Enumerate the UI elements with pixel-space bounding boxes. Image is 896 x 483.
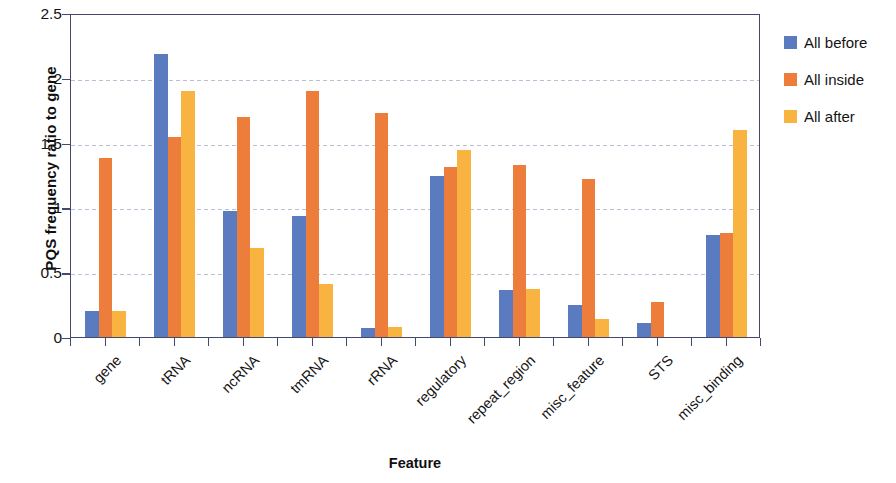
legend-swatch-icon [784, 110, 797, 123]
bar [430, 176, 444, 337]
legend-swatch-icon [784, 73, 797, 86]
bar-group [499, 15, 540, 337]
y-axis-tick-mark [62, 338, 70, 339]
legend-label: All inside [804, 71, 864, 88]
x-axis-tick-mark [105, 338, 106, 346]
x-axis-tick-mark [622, 338, 623, 346]
y-axis-tick-label: 2.5 [18, 5, 62, 23]
y-axis-tick-label: 2 [18, 70, 62, 88]
bar [181, 91, 195, 337]
x-axis-tick-mark [381, 338, 382, 346]
x-axis-tick-mark [346, 338, 347, 346]
x-axis-tick-mark [588, 338, 589, 346]
x-axis-tick-mark [760, 338, 761, 346]
bars-layer [71, 15, 759, 337]
bar [237, 117, 251, 337]
x-axis-tick-mark [208, 338, 209, 346]
bar-group [292, 15, 333, 337]
legend-label: All after [804, 108, 855, 125]
bar [112, 311, 126, 337]
x-axis-tick-mark [139, 338, 140, 346]
bar [292, 216, 306, 337]
bar [388, 327, 402, 337]
bar-group [223, 15, 264, 337]
bar-group [85, 15, 126, 337]
y-axis-tick-mark [62, 14, 70, 15]
bar [306, 91, 320, 337]
x-axis-tick-mark [553, 338, 554, 346]
bar [595, 319, 609, 337]
bar [319, 284, 333, 337]
legend-item[interactable]: All after [784, 98, 896, 135]
x-axis-tick-mark [312, 338, 313, 346]
x-axis-tick-mark [450, 338, 451, 346]
bar-group [430, 15, 471, 337]
legend-item[interactable]: All before [784, 24, 896, 61]
bar [513, 165, 527, 337]
bar [250, 248, 264, 337]
x-axis-tick-mark [415, 338, 416, 346]
x-axis-tick-mark [484, 338, 485, 346]
x-axis-tick-mark [243, 338, 244, 346]
legend-label: All before [804, 34, 867, 51]
x-axis-tick-mark [174, 338, 175, 346]
bar-group [568, 15, 609, 337]
x-axis-tick-mark [519, 338, 520, 346]
bar-group [154, 15, 195, 337]
y-axis-tick-label: 1 [18, 199, 62, 217]
bar [568, 305, 582, 337]
bar [154, 54, 168, 337]
bar [85, 311, 99, 337]
x-axis-tick-mark [691, 338, 692, 346]
y-axis-tick-mark [62, 208, 70, 209]
bar [223, 211, 237, 337]
bar [651, 302, 665, 337]
bar-group [361, 15, 402, 337]
legend-item[interactable]: All inside [784, 61, 896, 98]
legend-swatch-icon [784, 36, 797, 49]
bar [526, 289, 540, 337]
bar [375, 113, 389, 337]
bar [444, 167, 458, 337]
bar-chart-figure: PQS frequency ratio to gene 00.511.522.5… [0, 0, 896, 483]
x-axis-tick-mark [726, 338, 727, 346]
x-axis-title: Feature [70, 455, 760, 471]
y-axis-tick-label: 0 [18, 329, 62, 347]
y-axis-tick-mark [62, 144, 70, 145]
bar [361, 328, 375, 337]
bar [733, 130, 747, 337]
bar-group [637, 15, 678, 337]
bar-group [706, 15, 747, 337]
y-axis-tick-mark [62, 79, 70, 80]
x-axis-tick-mark [70, 338, 71, 346]
y-axis-tick-label: 1.5 [18, 135, 62, 153]
bar [720, 233, 734, 337]
bar [168, 137, 182, 337]
x-axis-tick-mark [277, 338, 278, 346]
bar [99, 158, 113, 337]
bar [706, 235, 720, 337]
y-axis-tick-mark [62, 273, 70, 274]
bar [457, 150, 471, 337]
x-axis-tick-mark [657, 338, 658, 346]
bar [582, 179, 596, 337]
bar [637, 323, 651, 337]
plot-area [70, 14, 760, 338]
bar [499, 290, 513, 337]
chart-legend: All beforeAll insideAll after [784, 24, 896, 135]
y-axis-tick-label: 0.5 [18, 264, 62, 282]
y-axis-tick-marks [62, 14, 70, 338]
x-axis-category-labels: genetRNAncRNAtmRNArRNAregulatoryrepeat_r… [70, 346, 760, 446]
x-axis-tick-marks [70, 338, 760, 346]
